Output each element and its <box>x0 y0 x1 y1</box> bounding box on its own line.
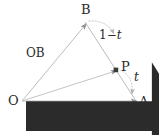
vector-label-OB: OB <box>26 46 45 59</box>
vector-overarrow-icon <box>59 110 159 135</box>
parameter-one-value: 1 <box>99 28 107 42</box>
vector-label-OA-body: OA <box>59 110 78 123</box>
vector-label-OA: OA <box>59 110 78 123</box>
parameter-t-variable-upper: t <box>117 28 122 42</box>
vector-geometry-diagram: B A O P 1−t t OB OA <box>0 0 159 135</box>
vector-label-OB-body: OB <box>26 46 45 59</box>
parameter-label-one-minus-t: 1−t <box>99 29 122 41</box>
parameter-minus-operator: − <box>107 28 117 42</box>
point-label-B: B <box>81 3 91 16</box>
point-label-O: O <box>8 94 19 107</box>
